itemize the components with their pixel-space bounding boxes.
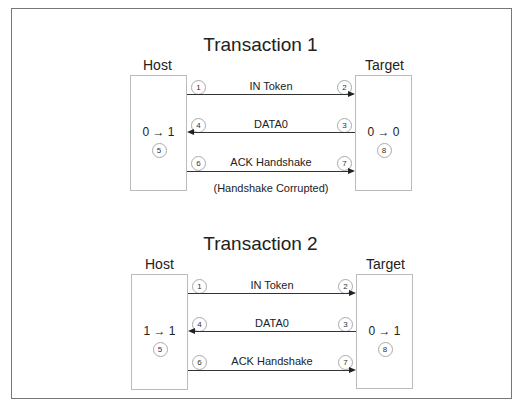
target-toggle-state: 0 → 1 [357,324,412,338]
step-marker: 3 [337,118,352,133]
target-label: Target [365,57,404,73]
host-toggle-state: 1 → 1 [132,324,187,338]
target-label: Target [366,256,405,272]
target-toggle-state: 0 → 0 [356,125,411,139]
step-marker: 5 [152,143,167,158]
host-box: 0 → 1 5 [130,75,187,191]
host-label: Host [143,57,172,73]
target-box: 0 → 1 8 [356,274,413,389]
arrow-right-icon [188,293,354,294]
target-box: 0 → 0 8 [355,75,412,191]
message-label: IN Token [186,80,356,92]
message-label: DATA0 [186,118,356,130]
transaction-1: Transaction 1 Host Target 0 → 1 5 0 → 0 … [0,0,521,200]
host-box: 1 → 1 5 [131,274,188,390]
arrow-left-icon [190,331,356,332]
arrow-right-icon [188,370,354,371]
arrow-right-icon [187,94,353,95]
step-marker: 8 [378,342,393,357]
step-marker: 5 [153,342,168,357]
arrow-right-icon [187,171,353,172]
message-label: ACK Handshake [187,355,357,367]
corruption-note: (Handshake Corrupted) [186,182,356,194]
host-label: Host [145,256,174,272]
transaction-title: Transaction 1 [0,34,521,56]
transaction-2: Transaction 2 Host Target 1 → 1 5 0 → 1 … [0,199,521,399]
arrow-left-icon [189,132,355,133]
step-marker: 8 [377,143,392,158]
step-marker: 3 [338,317,353,332]
host-toggle-state: 0 → 1 [131,125,186,139]
message-label: IN Token [187,279,357,291]
message-label: DATA0 [187,317,357,329]
message-label: ACK Handshake [186,156,356,168]
transaction-title: Transaction 2 [0,233,521,255]
